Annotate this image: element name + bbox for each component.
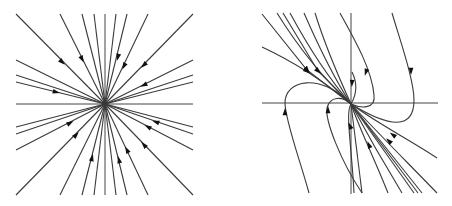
phase-portrait-figure (0, 0, 452, 206)
arrow-head-icon (140, 81, 148, 86)
arrow-head-icon (350, 80, 355, 87)
trajectory-ray (105, 104, 116, 195)
arrow-head-icon (144, 125, 151, 131)
trajectory-ray (60, 104, 105, 195)
trajectory-ray (16, 60, 105, 104)
trajectory-ray (105, 75, 193, 104)
direction-arrows (283, 67, 414, 149)
arrow-head-icon (122, 62, 127, 70)
left-phase-portrait-star-node (16, 14, 193, 195)
arrow-head-icon (152, 121, 160, 126)
trajectory-ray (94, 14, 105, 104)
trajectory-ray (105, 82, 193, 104)
trajectory-ray (16, 104, 105, 195)
trajectory-ray (82, 14, 105, 104)
trajectory-ray (105, 104, 127, 195)
arrow-head-icon (89, 154, 94, 162)
arrow-head-icon (58, 58, 65, 65)
trajectory-ray (105, 104, 193, 127)
arrow-head-icon (117, 156, 122, 164)
arrow-head-icon (390, 133, 397, 139)
trajectory-ray (105, 14, 148, 104)
trajectory-ray (82, 104, 105, 195)
trajectory-ray (16, 104, 105, 150)
trajectory-ray (105, 14, 127, 104)
right-phase-portrait-improper-node (262, 13, 438, 194)
arrow-head-icon (141, 61, 148, 68)
arrow-head-icon (52, 89, 60, 94)
arrow-head-icon (78, 55, 83, 63)
trajectory-ray (105, 14, 193, 104)
trajectory-ray (16, 104, 105, 134)
arrow-head-icon (117, 53, 122, 61)
trajectory-ray (16, 82, 105, 104)
trajectory-ray (16, 75, 105, 104)
trajectory-ray (105, 104, 193, 195)
trajectory-ray (16, 104, 105, 127)
arrow-head-icon (125, 146, 130, 154)
arrow-head-icon (72, 132, 79, 139)
arrow-head-icon (314, 67, 321, 74)
trajectory-ray (105, 14, 116, 104)
trajectory-ray (105, 60, 193, 104)
arrow-head-icon (303, 67, 310, 73)
arrow-head-icon (66, 121, 73, 127)
trajectory-ray (94, 104, 105, 195)
arrow-head-icon (283, 108, 288, 115)
